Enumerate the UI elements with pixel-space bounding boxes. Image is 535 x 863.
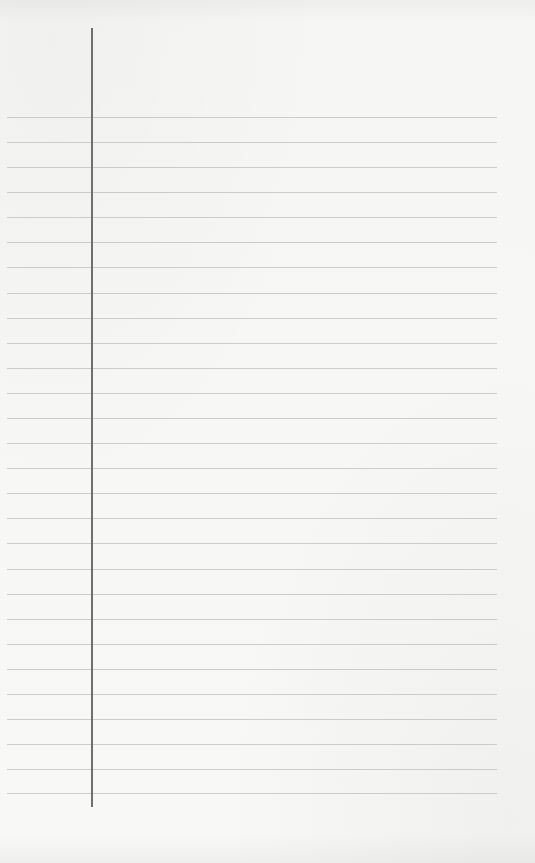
- ruled-line: [7, 669, 497, 670]
- ruled-line: [7, 719, 497, 720]
- ruled-line: [7, 393, 497, 394]
- ruled-line: [7, 192, 497, 193]
- ruled-line: [7, 117, 497, 118]
- ruled-line: [7, 594, 497, 595]
- ruled-line: [7, 443, 497, 444]
- ruled-line: [7, 142, 497, 143]
- ruled-line: [7, 619, 497, 620]
- ruled-line: [7, 694, 497, 695]
- ruled-line: [7, 318, 497, 319]
- ruled-paper-sheet: [0, 0, 535, 863]
- ruled-line: [7, 744, 497, 745]
- paper-bottom-shadow: [0, 833, 535, 863]
- ruled-line: [7, 468, 497, 469]
- paper-top-shadow: [0, 0, 535, 22]
- ruled-line: [7, 242, 497, 243]
- vertical-margin-line: [91, 28, 93, 807]
- ruled-line: [7, 418, 497, 419]
- ruled-line: [7, 769, 497, 770]
- ruled-line: [7, 293, 497, 294]
- ruled-line: [7, 793, 497, 794]
- ruled-line: [7, 343, 497, 344]
- ruled-line: [7, 644, 497, 645]
- ruled-line: [7, 368, 497, 369]
- ruled-line: [7, 217, 497, 218]
- ruled-line: [7, 569, 497, 570]
- ruled-line: [7, 493, 497, 494]
- ruled-line: [7, 167, 497, 168]
- ruled-line: [7, 543, 497, 544]
- ruled-line: [7, 267, 497, 268]
- ruled-line: [7, 518, 497, 519]
